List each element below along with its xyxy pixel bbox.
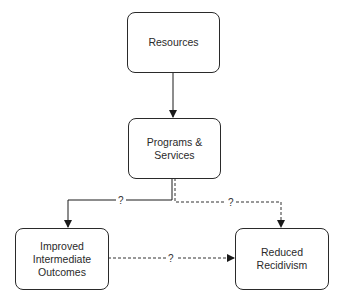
node-improved-intermediate-outcomes: Improved Intermediate Outcomes <box>15 228 109 290</box>
node-resources: Resources <box>127 12 220 73</box>
node-improved-intermediate-outcomes-label: Improved Intermediate Outcomes <box>33 240 91 279</box>
node-programs-services: Programs & Services <box>128 118 221 179</box>
node-reduced-recidivism: Reduced Recidivism <box>235 228 329 290</box>
node-resources-label: Resources <box>148 36 198 49</box>
logic-model-diagram: ? ? ? Resources Programs & Services Impr… <box>0 0 342 302</box>
node-reduced-recidivism-label: Reduced Recidivism <box>257 246 308 272</box>
node-programs-services-label: Programs & Services <box>147 136 202 162</box>
edge-label-programs-recidivism: ? <box>226 197 236 208</box>
edge-label-intermediate-recidivism: ? <box>166 253 176 264</box>
edge-label-programs-intermediate: ? <box>116 195 126 206</box>
